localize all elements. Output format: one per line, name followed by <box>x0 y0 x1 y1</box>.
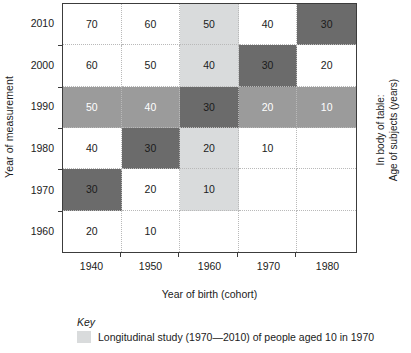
heatmap-cell-1970-1960: 10 <box>180 169 239 210</box>
key-entry-label: Longitudinal study (1970—2010) of people… <box>98 331 374 343</box>
heatmap-cell-value: 30 <box>203 101 215 113</box>
x-tick-label-1970: 1970 <box>239 260 298 276</box>
heatmap-cell-value: 20 <box>262 101 274 113</box>
heatmap-cell-value: 40 <box>145 101 157 113</box>
heatmap-cell-value: 40 <box>203 59 215 71</box>
heatmap-cell-2000-1970: 30 <box>239 45 298 86</box>
heatmap-cell-1980-1940: 40 <box>63 128 122 169</box>
x-tick-label-1980: 1980 <box>298 260 357 276</box>
y-tick-mark <box>58 45 63 46</box>
x-tick-mark <box>120 252 121 257</box>
heatmap-cell-value: 70 <box>86 18 98 30</box>
key-legend: Key Longitudinal study (1970—2010) of pe… <box>77 316 397 343</box>
heatmap-cell-1990-1950: 40 <box>122 87 181 128</box>
heatmap-cell-value: 30 <box>262 59 274 71</box>
x-axis-title: Year of birth (cohort) <box>62 288 357 300</box>
heatmap-cell-2000-1960: 40 <box>180 45 239 86</box>
key-title: Key <box>77 316 397 328</box>
y-tick-mark <box>58 128 63 129</box>
heatmap-cell-1970-1940: 30 <box>63 169 122 210</box>
heatmap-cell-1960-1940: 20 <box>63 211 122 252</box>
heatmap-cell-2000-1940: 60 <box>63 45 122 86</box>
heatmap-cell-1980-1980 <box>297 128 356 169</box>
y-tick-mark <box>58 169 63 170</box>
heatmap-cell-1960-1950: 10 <box>122 211 181 252</box>
heatmap-cell-1990-1970: 20 <box>239 87 298 128</box>
y-axis-tick-labels: 201020001990198019701960 <box>18 3 58 253</box>
heatmap-cell-value: 10 <box>262 142 274 154</box>
heatmap-cell-1970-1970 <box>239 169 298 210</box>
heatmap-cell-1980-1970: 10 <box>239 128 298 169</box>
heatmap-cell-value: 20 <box>86 225 98 237</box>
heatmap-cell-1960-1980 <box>297 211 356 252</box>
y-axis-title-text: Year of measurement <box>3 76 15 178</box>
y-tick-mark <box>58 87 63 88</box>
y-tick-label-2010: 2010 <box>31 3 54 45</box>
body-of-table-annotation-line2: Age of subjects (years) <box>387 79 400 181</box>
y-axis-title: Year of measurement <box>0 0 18 253</box>
heatmap-cell-value: 50 <box>203 18 215 30</box>
x-tick-mark <box>178 252 179 257</box>
y-tick-mark <box>58 211 63 212</box>
heatmap-cell-2010-1980: 30 <box>297 4 356 45</box>
x-tick-label-1940: 1940 <box>62 260 121 276</box>
heatmap-cell-value: 40 <box>262 18 274 30</box>
key-entry: Longitudinal study (1970—2010) of people… <box>77 331 397 343</box>
heatmap-cell-1980-1950: 30 <box>122 128 181 169</box>
heatmap-cell-1980-1960: 20 <box>180 128 239 169</box>
body-of-table-annotation-line1: In body of table: <box>374 79 387 181</box>
heatmap-cell-value: 50 <box>145 59 157 71</box>
y-tick-label-1970: 1970 <box>31 170 54 212</box>
heatmap-cell-value: 40 <box>86 142 98 154</box>
body-of-table-annotation: In body of table: Age of subjects (years… <box>365 40 409 220</box>
heatmap-grid: 7060504030605040302050403020104030201030… <box>63 4 356 252</box>
heatmap-cell-value: 30 <box>145 142 157 154</box>
y-tick-label-1960: 1960 <box>31 211 54 253</box>
heatmap-cell-1990-1980: 10 <box>297 87 356 128</box>
heatmap-cell-value: 10 <box>321 101 333 113</box>
heatmap-cell-value: 20 <box>203 142 215 154</box>
heatmap-cell-2010-1970: 40 <box>239 4 298 45</box>
y-tick-label-1990: 1990 <box>31 86 54 128</box>
heatmap-cell-1990-1960: 30 <box>180 87 239 128</box>
heatmap-cell-value: 30 <box>86 183 98 195</box>
heatmap-cell-value: 20 <box>321 59 333 71</box>
heatmap-cell-value: 10 <box>145 225 157 237</box>
x-tick-label-1960: 1960 <box>180 260 239 276</box>
x-tick-mark <box>237 252 238 257</box>
heatmap-cell-1960-1970 <box>239 211 298 252</box>
heatmap-cell-value: 10 <box>203 183 215 195</box>
heatmap-cell-2010-1940: 70 <box>63 4 122 45</box>
heatmap-cell-value: 60 <box>145 18 157 30</box>
heatmap-cell-2010-1950: 60 <box>122 4 181 45</box>
y-tick-label-1980: 1980 <box>31 128 54 170</box>
x-tick-label-1950: 1950 <box>121 260 180 276</box>
y-tick-label-2000: 2000 <box>31 45 54 87</box>
heatmap-cell-value: 60 <box>86 59 98 71</box>
heatmap-cell-1990-1940: 50 <box>63 87 122 128</box>
heatmap-cell-value: 30 <box>321 18 333 30</box>
heatmap-plot-area: 7060504030605040302050403020104030201030… <box>62 3 357 253</box>
x-axis-tick-labels: 19401950196019701980 <box>62 260 357 276</box>
key-swatch-light-gray <box>77 331 91 343</box>
heatmap-cell-value: 50 <box>86 101 98 113</box>
x-tick-mark <box>295 252 296 257</box>
heatmap-cell-1970-1950: 20 <box>122 169 181 210</box>
heatmap-cell-1960-1960 <box>180 211 239 252</box>
heatmap-cell-1970-1980 <box>297 169 356 210</box>
heatmap-cell-2000-1980: 20 <box>297 45 356 86</box>
heatmap-cell-2000-1950: 50 <box>122 45 181 86</box>
heatmap-cell-2010-1960: 50 <box>180 4 239 45</box>
heatmap-cell-value: 20 <box>145 183 157 195</box>
